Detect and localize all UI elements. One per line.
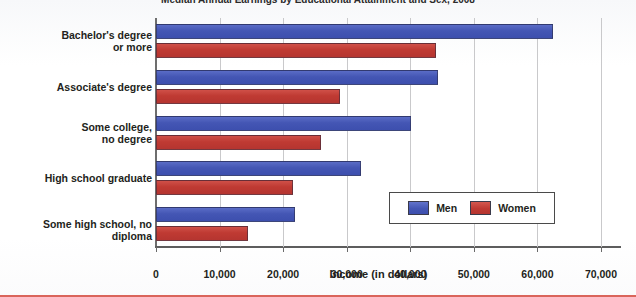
- x-tick: [220, 247, 221, 252]
- bar-men: [156, 161, 361, 176]
- category-axis-labels: Bachelor's degreeor moreAssociate's degr…: [0, 18, 152, 247]
- category-label-line: Bachelor's degree: [0, 29, 152, 41]
- x-tick: [283, 247, 284, 252]
- category-label-line: or more: [0, 41, 152, 53]
- bar-men: [156, 207, 295, 222]
- legend-swatch-men: [408, 201, 429, 215]
- bar-men: [156, 24, 553, 39]
- bar-women: [156, 89, 340, 104]
- category-label: High school graduate: [0, 172, 152, 184]
- chart-legend: Men Women: [389, 192, 555, 224]
- category-label: Some high school, no diploma: [0, 218, 152, 242]
- bar-men: [156, 116, 411, 131]
- bar-women: [156, 226, 248, 241]
- x-tick: [410, 247, 411, 252]
- bar-women: [156, 43, 436, 58]
- gridline: [601, 18, 602, 247]
- legend-entry-women: Women: [470, 201, 536, 215]
- category-label-line: Some college,: [0, 121, 152, 133]
- x-tick: [474, 247, 475, 252]
- x-tick: [601, 247, 602, 252]
- category-label: Bachelor's degreeor more: [0, 29, 152, 53]
- x-tick: [156, 247, 157, 252]
- bar-women: [156, 135, 321, 150]
- legend-swatch-women: [470, 201, 491, 215]
- category-label-line: Some high school, no diploma: [0, 218, 152, 242]
- chart-title: Median Annual Earnings by Educational At…: [0, 0, 636, 5]
- category-label-line: no degree: [0, 133, 152, 145]
- legend-entry-men: Men: [408, 201, 457, 215]
- legend-label-women: Women: [498, 202, 536, 214]
- category-label: Associate's degree: [0, 81, 152, 93]
- bar-women: [156, 180, 293, 195]
- x-tick: [347, 247, 348, 252]
- category-label-line: Associate's degree: [0, 81, 152, 93]
- x-tick: [537, 247, 538, 252]
- legend-label-men: Men: [436, 202, 457, 214]
- x-axis-label: Income (in dollars): [156, 268, 601, 280]
- category-label-line: High school graduate: [0, 172, 152, 184]
- bar-men: [156, 70, 438, 85]
- chart-figure: Median Annual Earnings by Educational At…: [0, 0, 636, 297]
- category-label: Some college,no degree: [0, 121, 152, 145]
